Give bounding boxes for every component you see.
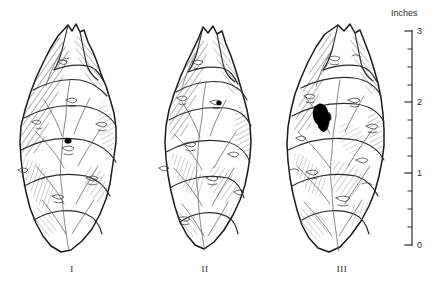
cone-I-damage-spot <box>65 139 72 144</box>
cone-II-damage-spot <box>216 101 221 105</box>
scale-label-0: 0 <box>417 240 422 250</box>
specimen-label-III: III <box>337 264 348 274</box>
specimen-label-II: II <box>202 264 209 274</box>
scale-label-3: 3 <box>417 26 422 36</box>
figure-illustration: I II III Inches 3 2 1 0 <box>0 0 434 281</box>
cone-illustration-canvas: I II III Inches 3 2 1 0 <box>0 0 434 281</box>
scale-label-1: 1 <box>417 168 422 178</box>
scale-bar-title: Inches <box>391 8 418 18</box>
scale-label-2: 2 <box>417 97 422 107</box>
specimen-label-I: I <box>70 264 74 274</box>
